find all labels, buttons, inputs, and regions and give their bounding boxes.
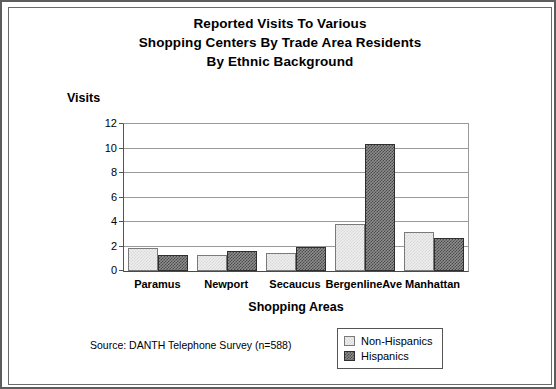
chart-title: Reported Visits To Various Shopping Cent… xyxy=(8,14,552,71)
bar xyxy=(434,238,464,271)
chart-title-line-1: Reported Visits To Various xyxy=(8,14,552,33)
x-axis-tick-labels: ParamusNewportSecaucusBergenlineAveManha… xyxy=(123,278,469,294)
y-tick-label-6: 6 xyxy=(83,191,117,203)
legend-label-non-hispanics: Non-Hispanics xyxy=(361,335,433,347)
bar-group xyxy=(266,124,326,271)
legend-item-non-hispanics: Non-Hispanics xyxy=(344,334,433,348)
chart-title-line-2: Shopping Centers By Trade Area Residents xyxy=(8,33,552,52)
bar-group xyxy=(128,124,188,271)
bar xyxy=(227,251,257,271)
bar xyxy=(365,144,395,271)
chart-outer-frame: Reported Visits To Various Shopping Cent… xyxy=(0,0,556,389)
legend-item-hispanics: Hispanics xyxy=(344,349,433,363)
bar xyxy=(128,248,158,271)
x-tick-label: Secaucus xyxy=(269,278,320,290)
y-tick-label-10: 10 xyxy=(83,142,117,154)
legend-swatch-hispanics xyxy=(344,351,355,361)
legend-swatch-non-hispanics xyxy=(344,336,355,346)
source-annotation: Source: DANTH Telephone Survey (n=588) xyxy=(90,339,291,351)
x-axis-title: Shopping Areas xyxy=(123,300,469,314)
x-tick-label: Newport xyxy=(204,278,248,290)
y-tick-label-8: 8 xyxy=(83,166,117,178)
x-tick-label: Manhattan xyxy=(405,278,460,290)
bar xyxy=(197,255,227,271)
x-tick-label: Paramus xyxy=(134,278,180,290)
legend-label-hispanics: Hispanics xyxy=(361,350,409,362)
y-tick-label-2: 2 xyxy=(83,240,117,252)
bar-group xyxy=(335,124,395,271)
y-tick-label-12: 12 xyxy=(83,117,117,129)
y-tick-label-4: 4 xyxy=(83,215,117,227)
chart-legend: Non-Hispanics Hispanics xyxy=(337,328,443,369)
x-tick-label: BergenlineAve xyxy=(325,278,402,290)
bar-group xyxy=(197,124,257,271)
chart-title-line-3: By Ethnic Background xyxy=(8,52,552,71)
y-axis-tick-labels: 024681012 xyxy=(81,123,117,272)
bar xyxy=(296,247,326,272)
y-axis-title: Visits xyxy=(67,91,100,105)
bar xyxy=(266,253,296,271)
y-tick-label-0: 0 xyxy=(83,264,117,276)
bar xyxy=(404,232,434,271)
bar-group xyxy=(404,124,464,271)
bar xyxy=(335,224,365,271)
plot-area xyxy=(123,123,469,272)
bar xyxy=(158,255,188,271)
